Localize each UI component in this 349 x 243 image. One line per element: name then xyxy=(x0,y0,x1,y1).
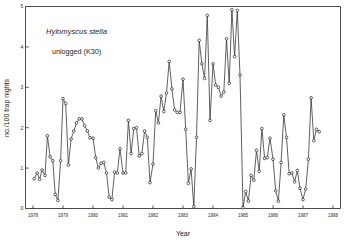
data-point-marker xyxy=(100,162,103,165)
data-point-marker xyxy=(236,9,239,12)
data-point-marker xyxy=(41,169,44,172)
data-point-marker xyxy=(195,136,198,139)
data-point-marker xyxy=(198,39,201,42)
data-point-marker xyxy=(242,206,245,209)
x-tick-label: 1988 xyxy=(328,213,339,218)
line-chart: 012345 197819791980198119821983198419851… xyxy=(0,0,349,243)
data-point-marker xyxy=(81,117,84,120)
data-series-group xyxy=(33,8,321,209)
data-point-marker xyxy=(182,78,185,81)
data-point-marker xyxy=(146,136,149,139)
data-point-marker xyxy=(36,172,39,175)
data-point-marker xyxy=(86,130,89,133)
data-point-marker xyxy=(135,126,138,129)
data-point-marker xyxy=(190,168,193,171)
y-tick-label: 3 xyxy=(21,84,24,90)
x-tick-label: 1983 xyxy=(178,213,189,218)
data-point-marker xyxy=(187,182,190,185)
data-point-marker xyxy=(296,169,299,172)
x-tick-label: 1985 xyxy=(238,213,249,218)
data-point-marker xyxy=(72,130,75,133)
data-point-marker xyxy=(252,179,255,182)
series-line-hylomyscus-stella xyxy=(34,10,319,208)
data-point-marker xyxy=(209,119,212,122)
data-point-marker xyxy=(44,174,47,177)
annotation-species-label: Hylomyscus stella xyxy=(46,27,107,36)
data-point-marker xyxy=(184,128,187,131)
data-point-marker xyxy=(113,171,116,174)
data-point-marker xyxy=(46,134,49,137)
data-point-marker xyxy=(64,102,67,105)
data-point-marker xyxy=(263,157,266,160)
y-tick-label: 1 xyxy=(21,165,24,171)
data-point-marker xyxy=(49,155,52,158)
data-point-marker xyxy=(312,139,315,142)
data-point-marker xyxy=(203,77,206,80)
data-point-marker xyxy=(89,136,92,139)
data-point-marker xyxy=(122,172,125,175)
data-point-marker xyxy=(62,97,65,100)
data-point-marker xyxy=(261,127,264,130)
x-tick-label: 1981 xyxy=(118,213,129,218)
x-tick-label: 1986 xyxy=(268,213,279,218)
data-point-marker xyxy=(38,178,41,181)
annotation-site-label: unlogged (K30) xyxy=(52,47,101,56)
data-point-marker xyxy=(171,88,174,91)
data-point-marker xyxy=(119,147,122,150)
series-markers xyxy=(33,8,321,209)
y-tick-label: 5 xyxy=(21,3,24,9)
x-tick-label: 1987 xyxy=(298,213,309,218)
data-point-marker xyxy=(212,63,215,66)
data-point-marker xyxy=(127,119,130,122)
data-point-marker xyxy=(141,152,144,155)
data-point-marker xyxy=(33,177,36,180)
data-point-marker xyxy=(192,205,195,208)
data-point-marker xyxy=(78,117,81,120)
data-point-marker xyxy=(201,63,204,66)
data-point-marker xyxy=(173,109,176,112)
data-point-marker xyxy=(75,122,78,125)
data-point-marker xyxy=(228,82,231,85)
data-point-marker xyxy=(67,164,70,167)
data-point-marker xyxy=(165,92,168,95)
data-point-marker xyxy=(132,127,135,130)
data-point-marker xyxy=(176,111,179,114)
data-point-marker xyxy=(138,155,141,158)
data-point-marker xyxy=(179,111,182,114)
data-point-marker xyxy=(233,55,236,58)
data-point-marker xyxy=(168,60,171,63)
data-point-marker xyxy=(130,152,133,155)
data-point-marker xyxy=(250,174,253,177)
x-axis-title: Year xyxy=(176,230,191,237)
data-point-marker xyxy=(258,170,261,173)
data-point-marker xyxy=(247,200,250,203)
x-tick-label: 1978 xyxy=(28,213,39,218)
y-tick-label: 4 xyxy=(21,44,24,50)
data-point-marker xyxy=(97,167,100,170)
data-point-marker xyxy=(111,198,114,201)
data-point-marker xyxy=(160,95,163,98)
data-point-marker xyxy=(59,159,62,162)
data-point-marker xyxy=(102,161,105,164)
data-point-marker xyxy=(108,196,111,199)
data-point-marker xyxy=(214,84,217,87)
data-point-marker xyxy=(280,161,283,164)
data-point-marker xyxy=(51,159,54,162)
x-tick-label: 1980 xyxy=(88,213,99,218)
y-tick-label: 2 xyxy=(21,125,24,131)
data-point-marker xyxy=(244,190,247,193)
data-point-marker xyxy=(272,158,275,161)
data-point-marker xyxy=(222,91,225,94)
data-point-marker xyxy=(231,8,234,11)
data-point-marker xyxy=(220,95,223,98)
data-point-marker xyxy=(269,137,272,140)
data-point-marker xyxy=(162,110,165,113)
data-point-marker xyxy=(92,137,95,140)
data-point-marker xyxy=(54,193,57,196)
data-point-marker xyxy=(239,74,242,77)
x-axis-ticks: 1978197919801981198219831984198519861987… xyxy=(28,205,339,217)
data-point-marker xyxy=(152,163,155,166)
data-point-marker xyxy=(225,37,228,40)
data-point-marker xyxy=(255,149,258,152)
data-point-marker xyxy=(94,156,97,159)
